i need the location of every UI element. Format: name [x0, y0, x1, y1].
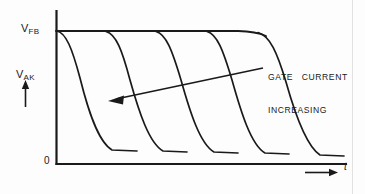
x-axis-title: t [344, 162, 347, 173]
y-axis-reference-label: VFB [21, 23, 39, 35]
origin-label: 0 [44, 156, 50, 167]
annotation-leader-line [116, 68, 263, 99]
annotation-text: GATE CURRENT INCREASING [268, 50, 348, 138]
annotation-arrowhead-icon [108, 96, 124, 105]
annotation-line-2: INCREASING [268, 105, 348, 116]
y-axis-arrow-icon [22, 80, 29, 107]
vfb-base-text: V [21, 22, 29, 34]
x-axis-arrow-icon [305, 169, 338, 176]
annotation-line-1: GATE CURRENT [268, 72, 348, 83]
vak-subscript-text: AK [24, 73, 35, 82]
y-axis-title: VAK [16, 69, 35, 81]
vfb-subscript-text: FB [29, 27, 40, 36]
turnoff-curve-3 [156, 32, 238, 154]
turnoff-curve-1 [57, 31, 137, 151]
figure-container: VFB VAK 0 t GATE CURRENT INCREASING [0, 0, 365, 194]
vak-base-text: V [16, 68, 24, 80]
